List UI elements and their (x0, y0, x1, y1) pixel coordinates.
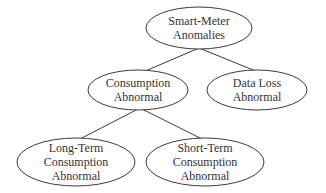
edge-root-to-dataloss (199, 48, 258, 72)
node-dataloss: Data LossAbnormal (207, 70, 307, 110)
node-label: Consumption (106, 76, 171, 90)
node-shortterm: Short-TermConsumptionAbnormal (146, 138, 264, 186)
edge-consumption-to-longterm (78, 108, 140, 140)
node-label: Abnormal (181, 169, 230, 183)
node-label: Smart-Meter (168, 14, 229, 28)
node-label: Long-Term (49, 141, 104, 155)
node-consumption: ConsumptionAbnormal (88, 70, 188, 110)
node-label: Data Loss (233, 76, 282, 90)
node-label: Short-Term (177, 141, 233, 155)
node-label: Consumption (44, 155, 109, 169)
node-label: Abnormal (114, 90, 163, 104)
edge-consumption-to-shortterm (140, 108, 204, 140)
node-label: Anomalies (173, 28, 225, 42)
node-longterm: Long-TermConsumptionAbnormal (17, 138, 135, 186)
anomaly-taxonomy-diagram: Smart-MeterAnomaliesConsumptionAbnormalD… (0, 0, 326, 193)
nodes-group: Smart-MeterAnomaliesConsumptionAbnormalD… (17, 7, 307, 186)
node-root: Smart-MeterAnomalies (146, 7, 252, 49)
node-label: Abnormal (233, 90, 282, 104)
edge-root-to-consumption (143, 48, 199, 72)
node-label: Consumption (173, 155, 238, 169)
node-label: Abnormal (52, 169, 101, 183)
